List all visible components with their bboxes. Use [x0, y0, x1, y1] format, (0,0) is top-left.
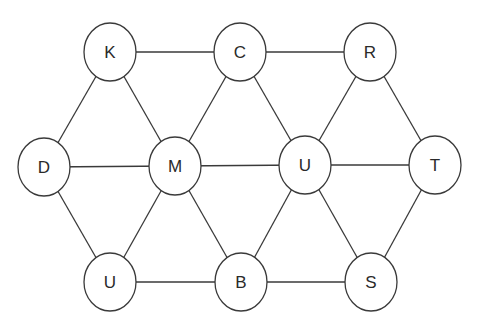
node-label: C	[234, 43, 246, 62]
graph-diagram: KCRDMUTUBS	[0, 0, 483, 334]
node-label: K	[104, 43, 116, 62]
node-label: S	[365, 273, 376, 292]
node-r: R	[344, 23, 396, 81]
node-label: R	[364, 43, 376, 62]
node-label: U	[104, 273, 116, 292]
node-u1: U	[279, 136, 331, 194]
node-t: T	[409, 136, 461, 194]
node-label: T	[430, 156, 440, 175]
edges-layer	[44, 52, 435, 282]
graph-svg: KCRDMUTUBS	[0, 0, 483, 334]
node-b: B	[215, 253, 267, 311]
node-s: S	[345, 253, 397, 311]
node-u2: U	[84, 253, 136, 311]
node-c: C	[214, 23, 266, 81]
node-m: M	[149, 137, 201, 195]
node-label: B	[235, 273, 246, 292]
node-k: K	[84, 23, 136, 81]
node-d: D	[18, 138, 70, 196]
node-label: U	[299, 156, 311, 175]
node-label: D	[38, 158, 50, 177]
node-label: M	[168, 157, 182, 176]
